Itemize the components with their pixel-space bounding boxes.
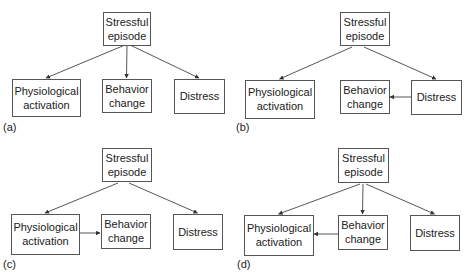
node-behavior: Behaviorchange bbox=[103, 80, 152, 113]
panel-label: (b) bbox=[236, 121, 249, 133]
arrow-stress-to-physio bbox=[279, 184, 361, 214]
node-stress: Stressfulepisode bbox=[339, 149, 389, 183]
node-label: Distress bbox=[415, 227, 455, 239]
node-label: Stressful bbox=[344, 16, 387, 28]
node-label: episode bbox=[344, 166, 383, 178]
node-label: change bbox=[347, 98, 383, 110]
node-physio: Physiologicalactivation bbox=[246, 81, 315, 119]
arrow-stress-to-distress bbox=[130, 45, 199, 78]
node-label: Behavior bbox=[104, 218, 148, 230]
node-distress: Distress bbox=[174, 215, 223, 250]
node-label: Distress bbox=[417, 91, 457, 103]
arrow-stress-to-behavior bbox=[127, 45, 128, 78]
panel-label: (c) bbox=[3, 258, 16, 270]
node-label: change bbox=[345, 233, 381, 245]
arrow-stress-to-physio bbox=[46, 45, 125, 78]
node-label: activation bbox=[256, 236, 302, 248]
diagram-canvas: StressfulepisodePhysiologicalactivationB… bbox=[0, 0, 468, 277]
node-label: change bbox=[108, 232, 144, 244]
node-label: Physiological bbox=[247, 222, 311, 234]
node-behavior: Behaviorchange bbox=[339, 216, 388, 250]
node-label: Behavior bbox=[343, 84, 387, 96]
node-label: activation bbox=[257, 100, 303, 112]
node-label: activation bbox=[22, 235, 68, 247]
node-label: Stressful bbox=[106, 152, 149, 164]
node-stress: Stressfulepisode bbox=[341, 13, 390, 46]
panel-label: (d) bbox=[237, 258, 250, 270]
node-label: Distress bbox=[178, 226, 218, 238]
node-label: episode bbox=[346, 30, 385, 42]
node-physio: Physiologicalactivation bbox=[12, 215, 80, 255]
node-label: Behavior bbox=[105, 83, 149, 95]
node-physio: Physiologicalactivation bbox=[13, 80, 81, 117]
node-label: change bbox=[109, 97, 145, 109]
node-physio: Physiologicalactivation bbox=[245, 216, 314, 256]
node-distress: Distress bbox=[175, 80, 225, 114]
node-distress: Distress bbox=[412, 81, 462, 115]
node-label: Stressful bbox=[342, 152, 385, 164]
node-label: episode bbox=[108, 30, 147, 42]
panel-d: StressfulepisodePhysiologicalactivationB… bbox=[237, 149, 460, 271]
node-stress: Stressfulepisode bbox=[103, 149, 152, 182]
node-behavior: Behaviorchange bbox=[341, 81, 390, 114]
panel-c: StressfulepisodePhysiologicalactivationB… bbox=[3, 149, 223, 271]
node-label: activation bbox=[23, 99, 69, 111]
arrow-stress-to-distress bbox=[364, 47, 436, 79]
panel-b: StressfulepisodePhysiologicalactivationB… bbox=[236, 13, 462, 134]
node-label: Distress bbox=[180, 90, 220, 102]
node-label: Physiological bbox=[13, 221, 77, 233]
node-label: episode bbox=[108, 166, 147, 178]
arrow-stress-to-behavior bbox=[363, 184, 364, 214]
arrow-stress-to-physio bbox=[45, 183, 118, 213]
panel-label: (a) bbox=[3, 121, 16, 133]
node-behavior: Behaviorchange bbox=[102, 215, 151, 249]
arrow-stress-to-physio bbox=[280, 47, 353, 79]
arrow-stress-to-distress bbox=[366, 184, 435, 214]
node-label: Stressful bbox=[106, 16, 149, 28]
arrow-stress-to-distress bbox=[129, 183, 198, 213]
node-label: Physiological bbox=[248, 86, 312, 98]
node-stress: Stressfulepisode bbox=[104, 13, 151, 46]
node-label: Behavior bbox=[341, 219, 385, 231]
node-label: Physiological bbox=[14, 85, 78, 97]
node-distress: Distress bbox=[411, 216, 460, 251]
panel-a: StressfulepisodePhysiologicalactivationB… bbox=[3, 13, 225, 134]
